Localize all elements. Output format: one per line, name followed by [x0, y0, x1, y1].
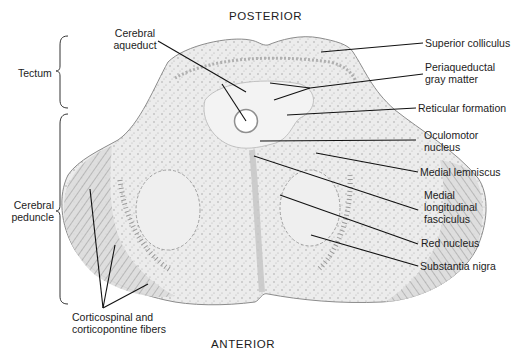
- label-medial-lemniscus: Medial lemniscus: [420, 166, 501, 178]
- label-substantia-nigra: Substantia nigra: [420, 260, 496, 272]
- posterior-label: POSTERIOR: [229, 10, 302, 22]
- label-oculomotor-nucleus: Oculomotor nucleus: [424, 129, 478, 153]
- label-cerebral-peduncle: Cerebral peduncle: [8, 199, 54, 223]
- label-cerebral-aqueduct: Cerebral aqueduct: [111, 27, 159, 51]
- anterior-label: ANTERIOR: [211, 338, 275, 350]
- midbrain-section-illustration: [0, 0, 528, 360]
- label-medial-longitudinal-fasciculus: Medial longitudinal fasciculus: [424, 189, 477, 225]
- red-nucleus-left: [136, 170, 200, 250]
- label-tectum: Tectum: [18, 67, 52, 79]
- label-red-nucleus: Red nucleus: [421, 237, 479, 249]
- midbrain-diagram: POSTERIOR ANTERIOR Cerebral aqueduct Tec…: [0, 0, 528, 360]
- tectum-bracket: [56, 36, 68, 108]
- label-periaqueductal-gray-matter: Periaqueductal gray matter: [425, 61, 495, 85]
- label-reticular-formation: Reticular formation: [418, 102, 506, 114]
- label-corticospinal-corticopontine-fibers: Corticospinal and corticopontine fibers: [72, 311, 166, 335]
- label-superior-colliculus: Superior colliculus: [425, 37, 510, 49]
